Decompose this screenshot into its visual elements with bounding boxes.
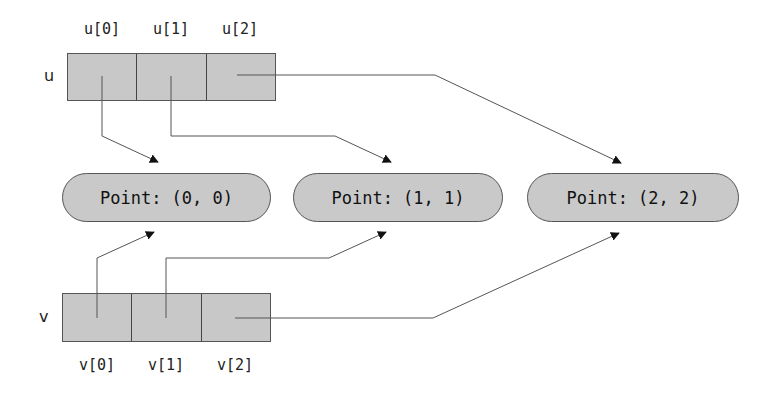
arrow-v1-to-point1 — [166, 232, 386, 318]
arrow-u0-to-point0 — [102, 76, 158, 162]
arrow-v2-to-point2 — [235, 233, 619, 318]
diagram-canvas: u[0] u[1] u[2] u Point: (0, 0) Point: (1… — [0, 0, 778, 399]
arrow-u1-to-point1 — [171, 76, 391, 162]
arrow-v0-to-point0 — [97, 232, 154, 318]
reference-arrows — [0, 0, 778, 399]
arrow-u2-to-point2 — [237, 75, 621, 163]
